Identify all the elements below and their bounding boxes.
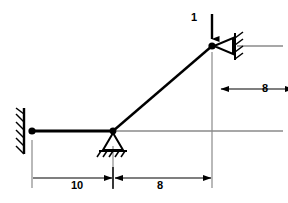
structural-diagram: 1 10 8 8: [0, 0, 288, 203]
left-pin-joint: [28, 127, 35, 134]
dimension-label-height: 8: [262, 83, 268, 94]
top-joint: [208, 42, 215, 49]
inclined-member: [113, 46, 212, 131]
frame-members: [32, 46, 212, 131]
diagram-svg: [0, 0, 288, 203]
extension-lines: [32, 46, 283, 188]
load-label: 1: [191, 12, 197, 23]
right-support-triangle: [214, 38, 233, 54]
dimension-label-span-right: 8: [157, 180, 163, 191]
dimension-label-span-left: 10: [71, 180, 83, 191]
left-wall-support: [16, 108, 36, 154]
middle-pin-joint: [110, 128, 117, 135]
